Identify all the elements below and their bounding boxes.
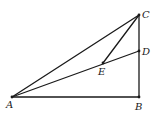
segments xyxy=(12,15,139,97)
segment-ec xyxy=(103,15,139,63)
point-d xyxy=(138,50,141,53)
label-e: E xyxy=(97,66,106,77)
point-c xyxy=(138,14,141,17)
point-b xyxy=(138,96,141,99)
label-d: D xyxy=(141,46,150,57)
geometry-figure: A B C D E xyxy=(0,0,158,118)
label-c: C xyxy=(142,9,150,20)
segment-ad xyxy=(12,51,139,97)
point-a xyxy=(11,96,14,99)
label-b: B xyxy=(134,101,142,112)
label-a: A xyxy=(5,99,13,110)
segment-ac xyxy=(12,15,139,97)
point-e xyxy=(102,62,105,65)
